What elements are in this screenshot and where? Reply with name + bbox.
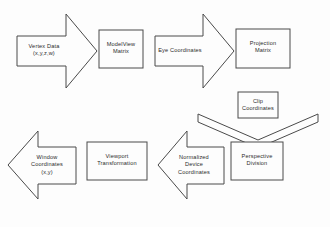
node-shape-window-coordinates[interactable]	[8, 131, 76, 199]
node-shape-modelview-matrix[interactable]	[99, 30, 143, 68]
diagram-canvas: Vertex Data (x,y,z,w) ModelView Matrix E…	[0, 0, 330, 227]
node-shape-eye-coordinates[interactable]	[155, 14, 234, 88]
node-shape-viewport-transformation[interactable]	[87, 142, 147, 180]
node-shape-vertex-data[interactable]	[17, 14, 97, 88]
node-shape-normalized-device-coordinates[interactable]	[158, 131, 224, 199]
node-shape-projection-matrix[interactable]	[236, 29, 290, 68]
node-shape-clip-coordinates[interactable]	[238, 92, 278, 118]
diagram-shapes-layer	[0, 0, 330, 227]
node-shape-perspective-division[interactable]	[231, 142, 283, 180]
